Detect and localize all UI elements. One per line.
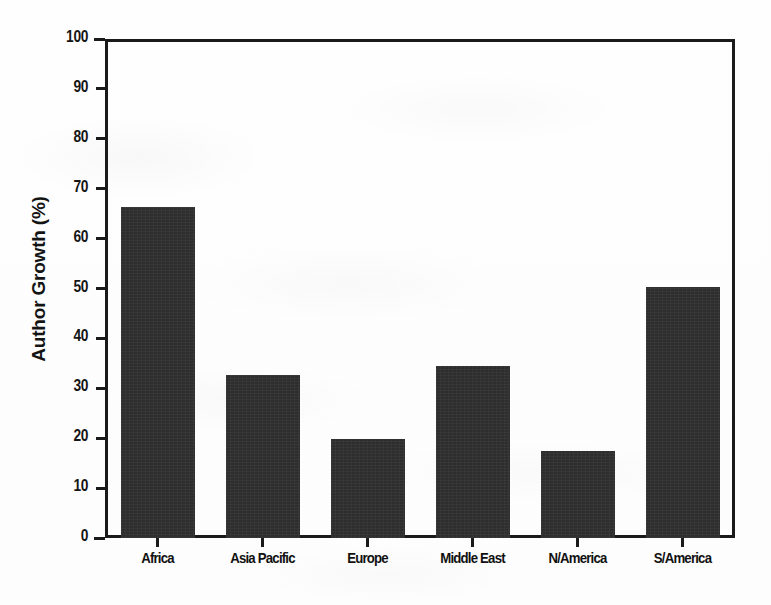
x-axis-tick bbox=[156, 538, 159, 547]
y-axis-tick-label: 10 bbox=[12, 477, 88, 495]
x-axis-tick-label: N/America bbox=[531, 549, 623, 566]
bars-layer bbox=[105, 39, 735, 538]
x-axis-tick bbox=[261, 538, 264, 547]
y-axis-tick bbox=[96, 287, 105, 290]
x-axis-tick bbox=[471, 538, 474, 547]
y-axis-tick-label: 100 bbox=[12, 28, 88, 46]
y-axis-tick bbox=[96, 487, 105, 490]
bar-chart-figure: Author Growth (%) 0102030405060708090100… bbox=[0, 0, 771, 605]
y-axis-tick bbox=[96, 237, 105, 240]
y-axis-tick-label: 60 bbox=[12, 228, 88, 246]
bar bbox=[541, 451, 615, 538]
y-axis-tick bbox=[96, 387, 105, 390]
x-axis-tick-label: Asia Pacific bbox=[216, 549, 308, 566]
x-axis-tick bbox=[576, 538, 579, 547]
y-axis-tick bbox=[96, 137, 105, 140]
y-axis-tick bbox=[96, 437, 105, 440]
y-axis-tick-label: 20 bbox=[12, 427, 88, 445]
y-axis-tick-label: 80 bbox=[12, 128, 88, 146]
y-axis-tick-label: 70 bbox=[12, 178, 88, 196]
x-axis-tick bbox=[366, 538, 369, 547]
x-axis-tick-label: Middle East bbox=[426, 549, 518, 566]
y-axis-tick bbox=[96, 187, 105, 190]
bar bbox=[121, 207, 195, 538]
y-axis-tick-label: 90 bbox=[12, 78, 88, 96]
y-axis-tick bbox=[94, 537, 105, 540]
x-axis-tick-label: Europe bbox=[321, 549, 413, 566]
y-axis-tick-label: 30 bbox=[12, 377, 88, 395]
x-axis-tick-label: S/America bbox=[636, 549, 728, 566]
x-axis-tick-label: Africa bbox=[111, 549, 203, 566]
y-axis-tick bbox=[96, 87, 105, 90]
bar bbox=[646, 287, 720, 538]
bar bbox=[436, 366, 510, 538]
y-axis-tick bbox=[96, 337, 105, 340]
y-axis-tick-label: 0 bbox=[12, 527, 88, 545]
bar bbox=[226, 375, 300, 538]
y-axis-tick-label: 50 bbox=[12, 278, 88, 296]
y-axis-tick bbox=[94, 38, 105, 41]
bar bbox=[331, 439, 405, 538]
y-axis-tick-label: 40 bbox=[12, 327, 88, 345]
x-axis-tick bbox=[681, 538, 684, 547]
